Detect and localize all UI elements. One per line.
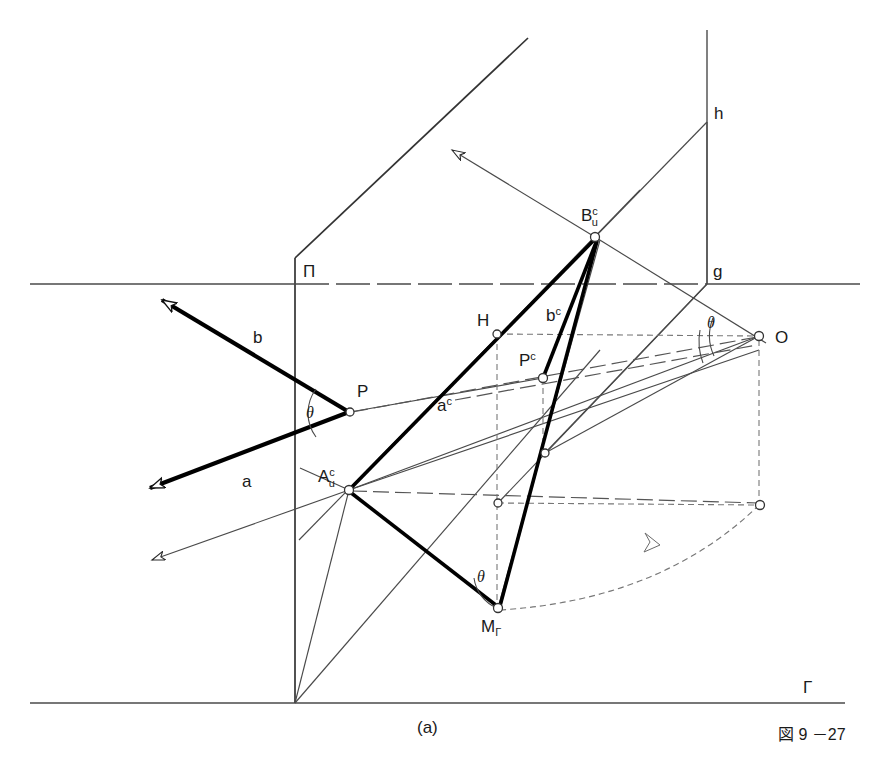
thick-rays-rotated xyxy=(349,239,597,606)
node-Au xyxy=(345,486,354,495)
label-point-Mg-base: M xyxy=(481,617,495,636)
label-point-Bu-sub: u xyxy=(592,216,598,228)
svg-text:MΓ: MΓ xyxy=(481,617,501,638)
node-Pc xyxy=(539,374,548,383)
label-line-h: h xyxy=(714,104,723,123)
label-theta-at-O: θ xyxy=(707,314,715,331)
plane-pi-oblique-edge xyxy=(295,38,528,258)
node-Bu xyxy=(591,233,600,242)
label-ray-bc: bc xyxy=(546,305,561,325)
label-ray-ac: ac xyxy=(437,395,452,415)
thick-ray-Au-to-Mg xyxy=(350,492,497,606)
label-point-Pc: Pc xyxy=(519,350,536,370)
label-point-Mg: MΓ xyxy=(481,617,501,638)
label-point-Pc-base: P xyxy=(519,351,530,370)
node-Mg xyxy=(494,604,503,613)
label-ray-b: b xyxy=(253,328,262,347)
thick-ray-b xyxy=(162,300,349,412)
ray-Au-arrow-lower-left xyxy=(152,490,349,560)
figure-caption: (a) xyxy=(417,718,438,737)
figure-number: 図 9 －27 xyxy=(778,726,846,743)
svg-text:Bcu: Bcu xyxy=(581,205,598,228)
label-line-g: g xyxy=(713,262,722,281)
ray-Bu-arrow-upper-left xyxy=(452,150,595,237)
descriptive-geometry-diagram: Π Γ g h P O H a b ac bc xyxy=(0,0,871,757)
label-point-P: P xyxy=(357,382,368,401)
construction-lines-thin xyxy=(152,122,766,703)
label-ray-bc-sup: c xyxy=(555,305,561,317)
figure-container: Π Γ g h P O H a b ac bc xyxy=(0,0,871,757)
label-point-H: H xyxy=(477,311,489,330)
label-point-Bu-base: B xyxy=(581,206,592,225)
line-Au-to-O-lower xyxy=(349,350,759,490)
node-Q xyxy=(756,501,765,510)
rotation-arc-arrowhead xyxy=(644,533,660,552)
node-H xyxy=(493,330,501,338)
line-Au-to-O xyxy=(349,336,759,490)
svg-text:bc: bc xyxy=(546,305,561,325)
label-point-Au-sub: u xyxy=(329,477,335,489)
rotation-arc-group xyxy=(500,507,757,610)
label-ray-a: a xyxy=(242,472,252,491)
dash-N2-to-Q-horizontal xyxy=(498,503,757,505)
dash-H-to-O-horizontal xyxy=(497,334,757,336)
node-N2 xyxy=(494,499,502,507)
node-N1 xyxy=(541,449,549,457)
label-point-Mg-sub: Γ xyxy=(495,626,501,638)
label-theta-at-P: θ xyxy=(306,404,314,421)
svg-text:ac: ac xyxy=(437,395,452,415)
label-point-Au: Acu xyxy=(318,466,335,489)
thick-ray-Bu-to-Mg xyxy=(500,241,597,606)
dash-Au-to-Q xyxy=(351,491,758,503)
line-Bu-to-O xyxy=(595,237,766,343)
line-g-down-left-long xyxy=(498,284,707,503)
svg-text:Acu: Acu xyxy=(318,466,335,489)
node-O xyxy=(755,332,764,341)
thick-ray-ac xyxy=(349,239,595,490)
thick-rays-left xyxy=(150,300,349,488)
node-P xyxy=(346,408,354,416)
line-N1-to-O xyxy=(545,336,759,453)
label-theta-at-M: θ xyxy=(477,568,485,585)
label-plane-pi: Π xyxy=(303,262,315,281)
label-ground-gamma: Γ xyxy=(803,678,812,697)
rotation-arc xyxy=(500,507,757,610)
label-ray-ac-sup: c xyxy=(446,395,452,407)
svg-text:Pc: Pc xyxy=(519,350,536,370)
label-point-Pc-sup: c xyxy=(530,350,536,362)
label-point-Bu: Bcu xyxy=(581,205,598,228)
label-ray-bc-base: b xyxy=(546,306,555,325)
label-point-O: O xyxy=(775,328,788,347)
